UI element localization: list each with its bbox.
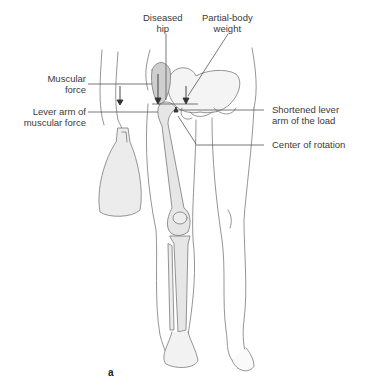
- pelvis: [168, 68, 240, 113]
- fibula-bone: [168, 244, 174, 330]
- body-illustration: [0, 0, 372, 385]
- label-diseased-hip: Diseased hip: [143, 12, 183, 34]
- label-partial-body-weight: Partial-body weight: [202, 12, 253, 34]
- panel-label: a: [108, 367, 114, 378]
- left-foot: [164, 332, 198, 367]
- hip-muscle-shaded: [151, 63, 170, 107]
- label-muscular-force: Muscular force: [47, 73, 86, 95]
- left-arm-outline: [116, 52, 126, 132]
- label-lever-arm-muscular-force: Lever arm of muscular force: [24, 106, 86, 128]
- label-shortened-lever-arm: Shortened lever arm of the load: [272, 104, 339, 126]
- patella: [173, 212, 187, 224]
- right-foot: [232, 348, 254, 371]
- carried-bag: [99, 128, 141, 216]
- right-leg-outline: [212, 118, 232, 360]
- label-center-of-rotation: Center of rotation: [272, 139, 345, 150]
- hip-biomechanics-figure: Diseased hip Partial-body weight Muscula…: [0, 0, 372, 385]
